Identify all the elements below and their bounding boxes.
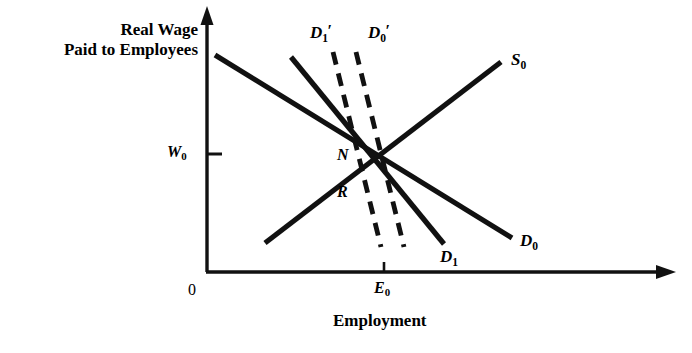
curve-label-d0-prime-base: D	[368, 23, 380, 42]
curve-d1-line	[291, 57, 444, 244]
curve-label-d1-subscript: 1	[452, 256, 458, 269]
x-tick-subscript: 0	[385, 286, 390, 298]
curves-group	[215, 52, 512, 247]
point-label-n: N	[337, 146, 349, 164]
x-axis-title: Employment	[333, 311, 427, 331]
curve-label-d1-prime-mark: ′	[327, 22, 332, 39]
curve-s0-line	[265, 62, 501, 243]
labor-market-diagram: Real Wage Paid to Employees Employment 0…	[0, 0, 692, 353]
curve-label-d0-prime-mark: ′	[385, 22, 390, 39]
y-axis-arrowhead	[201, 6, 214, 25]
curve-label-s0: S0	[511, 50, 526, 70]
curve-label-d0: D0	[520, 231, 538, 251]
curve-d0-prime-line	[356, 52, 404, 247]
curve-label-d0-subscript: 0	[532, 240, 538, 253]
curve-label-d1: D1	[440, 247, 458, 267]
origin-label: 0	[188, 281, 196, 299]
y-axis-title-line-2: Paid to Employees	[38, 40, 198, 60]
curve-label-d0-base: D	[520, 231, 532, 250]
x-axis-tick-label-e0: E0	[374, 279, 390, 297]
curve-label-d0-prime: D0′	[368, 23, 391, 43]
curve-label-d1-prime-base: D	[310, 23, 322, 42]
y-axis-title-line-1: Real Wage	[38, 20, 198, 40]
y-tick-base: W	[167, 143, 181, 160]
y-axis-tick-label-w0: W0	[167, 143, 187, 161]
x-axis-arrowhead	[656, 265, 676, 279]
curve-label-s0-subscript: 0	[520, 59, 526, 72]
curve-label-d1-prime: D1′	[310, 23, 333, 43]
point-label-r: R	[337, 183, 348, 201]
y-tick-subscript: 0	[181, 150, 186, 162]
x-tick-base: E	[374, 279, 385, 296]
curve-label-d1-base: D	[440, 247, 452, 266]
y-axis-title: Real Wage Paid to Employees	[38, 20, 198, 59]
